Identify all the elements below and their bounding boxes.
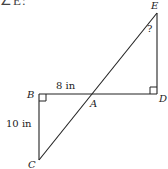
label-ab-length: 8 in — [56, 80, 76, 91]
label-b: B — [26, 89, 34, 100]
right-angle-marker-d — [150, 87, 157, 94]
label-a: A — [89, 98, 97, 109]
label-d: D — [158, 93, 167, 104]
label-c: C — [28, 159, 36, 169]
right-angle-marker-b — [39, 94, 46, 101]
label-angle-e-unknown: ? — [147, 23, 152, 34]
label-bc-length: 10 in — [6, 118, 32, 129]
geometry-diagram: E ? 8 in B A D 10 in C — [0, 0, 168, 169]
label-e: E — [150, 0, 159, 11]
